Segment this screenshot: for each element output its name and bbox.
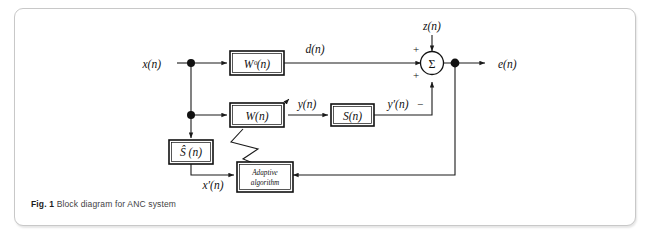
label-signal-y: y(n) xyxy=(297,98,317,111)
sigma-icon: Σ xyxy=(429,57,436,71)
block-s-path-label: S(n) xyxy=(343,110,362,123)
block-s-hat-label: Ŝ (n) xyxy=(180,145,202,159)
block-adaptive-algorithm: Adaptive algorithm xyxy=(237,162,293,192)
label-signal-x-prime: x′(n) xyxy=(201,179,223,192)
block-w-adaptive: W(n) xyxy=(230,103,284,127)
sign-plus-left: + xyxy=(413,69,419,81)
wire-x-prime-to-algorithm xyxy=(191,164,234,175)
block-w-optimal: Wᵒ(n) xyxy=(230,51,284,75)
block-adaptive-algorithm-label-line2: algorithm xyxy=(251,179,279,187)
summing-junction: Σ + + xyxy=(413,43,444,81)
label-signal-e: e(n) xyxy=(498,58,517,71)
figure-caption-label: Fig. 1 xyxy=(31,199,54,209)
node-x-branch-top xyxy=(187,59,195,67)
diagram-canvas: Wᵒ(n) W(n) S(n) Ŝ (n) xyxy=(15,9,637,197)
sign-minus-bottom: − xyxy=(417,98,423,110)
figure-caption: Fig. 1 Block diagram for ANC system xyxy=(31,199,176,209)
figure-card: Wᵒ(n) W(n) S(n) Ŝ (n) xyxy=(14,8,636,226)
block-adaptive-algorithm-outline xyxy=(237,162,293,192)
block-diagram: Wᵒ(n) W(n) S(n) Ŝ (n) xyxy=(15,9,637,197)
label-signal-x: x(n) xyxy=(141,58,161,71)
sign-plus-top: + xyxy=(413,43,419,55)
label-signal-z: z(n) xyxy=(422,20,441,33)
node-x-branch-mid xyxy=(187,111,195,119)
block-adaptive-algorithm-label-line1: Adaptive xyxy=(251,169,278,177)
label-signal-d: d(n) xyxy=(305,43,324,56)
node-e-branch xyxy=(451,59,460,68)
block-s-hat-estimate: Ŝ (n) xyxy=(169,140,213,164)
block-w-optimal-label: Wᵒ(n) xyxy=(244,58,270,71)
label-signal-y-prime: y′(n) xyxy=(386,98,408,111)
figure-caption-text: Block diagram for ANC system xyxy=(57,199,176,209)
wire-weight-update-zigzag xyxy=(231,129,258,165)
block-w-adaptive-label: W(n) xyxy=(246,110,269,123)
block-s-path: S(n) xyxy=(331,104,374,126)
